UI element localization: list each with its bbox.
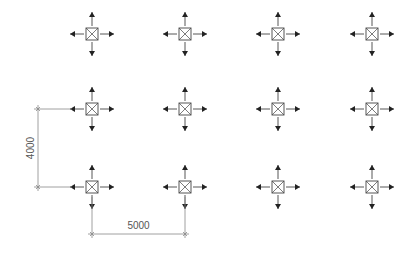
arrow-right-icon [100,106,114,112]
grid-symbol [70,12,114,56]
arrow-up-icon [89,12,95,26]
arrow-left-icon [163,184,177,190]
arrow-left-icon [70,106,84,112]
crossed-box-icon [272,28,284,40]
arrow-right-icon [286,184,300,190]
arrow-up-icon [89,165,95,179]
horizontal-dimension: 5000 [88,197,189,238]
crossed-box-icon [179,28,191,40]
arrow-right-icon [193,106,207,112]
dimension-lines: 5000 4000 [25,105,189,238]
arrow-left-icon [256,106,270,112]
crossed-box-icon [86,28,98,40]
arrow-right-icon [286,31,300,37]
grid-symbol [256,87,300,131]
grid-symbol [256,12,300,56]
arrow-down-icon [275,195,281,209]
grid-symbol [163,12,207,56]
crossed-box-icon [366,28,378,40]
arrow-right-icon [193,31,207,37]
crossed-box-icon [86,103,98,115]
arrow-right-icon [380,184,394,190]
arrow-right-icon [286,106,300,112]
crossed-box-icon [366,181,378,193]
grid-symbol [163,87,207,131]
arrow-up-icon [369,165,375,179]
arrow-up-icon [275,87,281,101]
arrow-left-icon [163,31,177,37]
arrow-right-icon [100,31,114,37]
arrow-right-icon [100,184,114,190]
arrow-left-icon [350,184,364,190]
arrow-down-icon [369,195,375,209]
crossed-box-icon [272,103,284,115]
arrow-left-icon [70,31,84,37]
arrow-up-icon [275,165,281,179]
symbol-grid [70,12,394,209]
grid-symbol [350,87,394,131]
drawing-canvas: 5000 4000 [0,0,412,253]
arrow-up-icon [182,165,188,179]
arrow-up-icon [182,87,188,101]
arrow-left-icon [350,106,364,112]
arrow-down-icon [369,42,375,56]
arrow-down-icon [182,42,188,56]
crossed-box-icon [366,103,378,115]
arrow-up-icon [182,12,188,26]
arrow-down-icon [89,117,95,131]
crossed-box-icon [86,181,98,193]
grid-symbol [350,12,394,56]
arrow-left-icon [350,31,364,37]
crossed-box-icon [272,181,284,193]
arrow-right-icon [193,184,207,190]
crossed-box-icon [179,103,191,115]
arrow-down-icon [89,42,95,56]
arrow-right-icon [380,106,394,112]
grid-symbol [350,165,394,209]
arrow-up-icon [369,12,375,26]
arrow-down-icon [182,117,188,131]
arrow-up-icon [89,87,95,101]
dimension-label-5000: 5000 [127,220,150,231]
arrow-up-icon [275,12,281,26]
grid-symbol [70,87,114,131]
grid-symbol [256,165,300,209]
arrow-down-icon [275,42,281,56]
arrow-down-icon [275,117,281,131]
dimension-label-4000: 4000 [25,136,36,159]
crossed-box-icon [179,181,191,193]
arrow-left-icon [163,106,177,112]
arrow-left-icon [256,31,270,37]
arrow-down-icon [369,117,375,131]
arrow-left-icon [256,184,270,190]
arrow-up-icon [369,87,375,101]
arrow-left-icon [70,184,84,190]
arrow-right-icon [380,31,394,37]
vertical-dimension: 4000 [25,105,72,191]
